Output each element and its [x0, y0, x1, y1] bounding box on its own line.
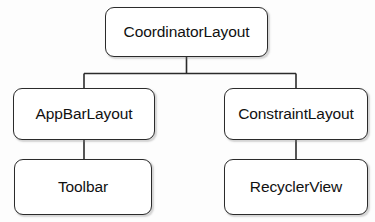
- node-recyclerview[interactable]: RecyclerView: [224, 159, 368, 215]
- node-coordinatorlayout[interactable]: CoordinatorLayout: [105, 7, 268, 57]
- node-label: ConstraintLayout: [238, 106, 354, 122]
- node-appbarlayout[interactable]: AppBarLayout: [13, 88, 155, 140]
- node-toolbar[interactable]: Toolbar: [14, 159, 152, 215]
- node-label: RecyclerView: [250, 179, 342, 195]
- layout-hierarchy-diagram: CoordinatorLayout AppBarLayout Constrain…: [0, 0, 375, 222]
- node-label: Toolbar: [58, 179, 108, 195]
- node-label: AppBarLayout: [35, 106, 132, 122]
- node-constraintlayout[interactable]: ConstraintLayout: [224, 88, 368, 140]
- node-label: CoordinatorLayout: [124, 24, 250, 40]
